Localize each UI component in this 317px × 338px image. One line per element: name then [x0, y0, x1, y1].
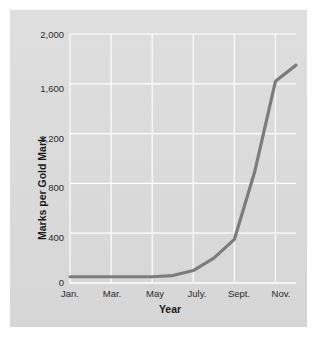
x-tick-label-july: July.	[179, 288, 215, 299]
y-tick-label-0: 0	[22, 277, 64, 288]
x-axis-title: Year	[146, 303, 194, 315]
y-tick-label-400: 400	[22, 232, 64, 243]
x-tick-label-mar: Mar.	[94, 288, 130, 299]
x-tick-label-may: May	[137, 288, 173, 299]
y-tick-label-800: 800	[22, 182, 64, 193]
y-tick-label-1200: 1,200	[22, 133, 64, 144]
y-tick-label-1600: 1,600	[22, 83, 64, 94]
chart-figure: Marks per Gold Mark 0 400 800 1,200 1,60…	[0, 0, 317, 338]
x-tick-label-nov: Nov.	[263, 288, 299, 299]
x-tick-label-sept: Sept.	[221, 288, 257, 299]
y-tick-label-2000: 2,000	[22, 29, 64, 40]
x-tick-label-jan: Jan.	[52, 288, 88, 299]
